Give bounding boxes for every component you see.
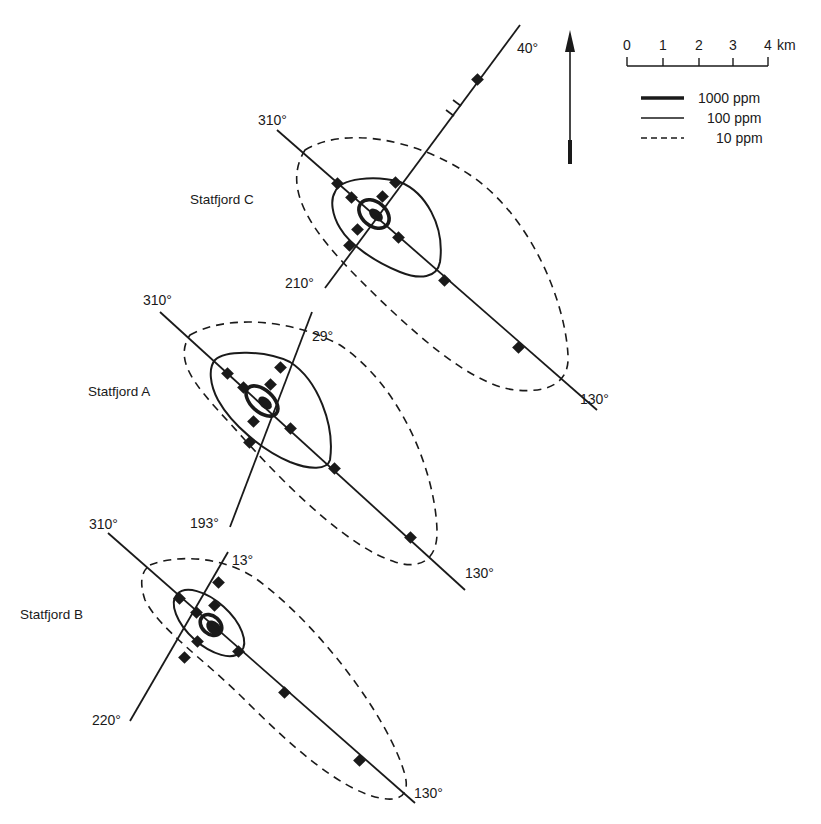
contour-10ppm: [297, 138, 568, 391]
north-arrow-icon: [565, 30, 575, 164]
legend-label-10: 10 ppm: [716, 130, 763, 146]
sample-markers: [173, 576, 366, 767]
bearing-label-29: 29°: [312, 328, 333, 344]
bearing-label-310: 310°: [258, 112, 287, 128]
scale-bar: 0 1 2 3 4 km: [623, 37, 796, 66]
bearing-label-220: 220°: [92, 712, 121, 728]
bearing-label-130: 130°: [580, 391, 609, 407]
bearing-label-40: 40°: [517, 40, 538, 56]
bearing-label-210: 210°: [285, 275, 314, 291]
bearing-label-13: 13°: [232, 552, 253, 568]
bearing-label-130: 130°: [465, 565, 494, 581]
legend-label-100: 100 ppm: [707, 110, 761, 126]
bearing-label-310: 310°: [143, 292, 172, 308]
bearing-label-130: 130°: [414, 785, 443, 801]
bearing-label-310: 310°: [89, 516, 118, 532]
transect-310-130: [108, 533, 415, 803]
legend-label-1000: 1000 ppm: [698, 90, 760, 106]
scale-tick-4: 4: [764, 37, 772, 53]
scale-tick-1: 1: [659, 37, 667, 53]
transect-40-210: [325, 25, 520, 288]
transect-29-193: [230, 312, 312, 527]
scale-unit: km: [777, 37, 796, 53]
platform-statfjord-b: Statfjord B 310° 130° 13° 220°: [20, 516, 443, 803]
scale-tick-2: 2: [695, 37, 703, 53]
plume-diagram: 0 1 2 3 4 km 1000 ppm 100 ppm 10 ppm: [0, 0, 821, 824]
platform-statfjord-a: Statfjord A 310° 130° 29° 193°: [88, 292, 494, 590]
bearing-label-193: 193°: [190, 515, 219, 531]
transect-310-130: [277, 130, 597, 410]
platform-label: Statfjord C: [190, 192, 254, 207]
platform-label: Statfjord A: [88, 384, 150, 399]
scale-tick-3: 3: [729, 37, 737, 53]
sample-markers: [221, 361, 417, 544]
platform-label: Statfjord B: [20, 607, 83, 622]
transect-310-130: [160, 312, 465, 590]
contour-10ppm: [184, 322, 437, 565]
legend: 1000 ppm 100 ppm 10 ppm: [641, 90, 763, 146]
scale-tick-0: 0: [623, 37, 631, 53]
